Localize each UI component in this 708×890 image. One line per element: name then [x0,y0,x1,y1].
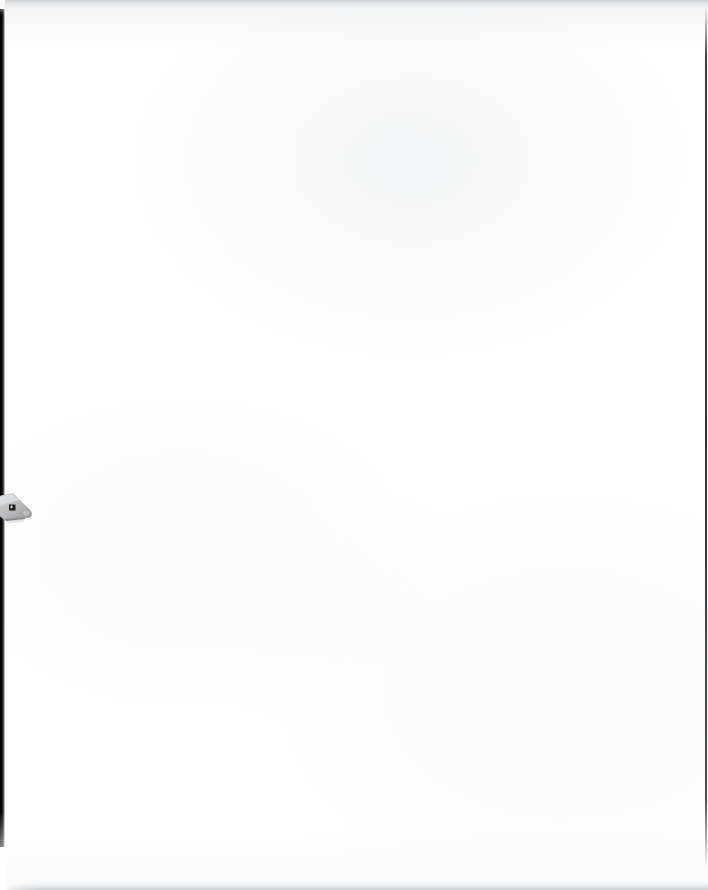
margin-tag-object [0,488,36,526]
scanned-page [0,0,708,890]
right-page-edge-line [705,6,707,868]
left-binding-shadow [0,9,5,847]
paper-surface [0,0,708,890]
bottom-scan-band [6,881,708,890]
left-shadow-top-fade [0,0,5,14]
bottom-left-fade [0,881,40,890]
top-scan-band [0,0,708,11]
left-shadow-bottom-fade [0,812,6,890]
